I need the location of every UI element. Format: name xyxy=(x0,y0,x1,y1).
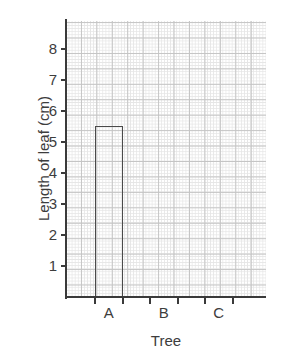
plot-area xyxy=(66,21,266,297)
x-axis-title: Tree xyxy=(66,332,266,349)
y-tick-label: 1 xyxy=(49,256,57,275)
x-tick-mark xyxy=(94,297,96,304)
y-tick-label: 5 xyxy=(49,132,57,151)
x-tick-mark xyxy=(204,297,206,304)
y-tick-label: 6 xyxy=(49,101,57,120)
y-tick-mark xyxy=(61,141,66,143)
y-tick-label: 3 xyxy=(49,194,57,213)
x-tick-mark xyxy=(149,297,151,304)
bar-a xyxy=(95,126,123,297)
y-tick-mark xyxy=(61,172,66,174)
y-tick-label: 2 xyxy=(49,225,57,244)
x-tick-mark xyxy=(232,297,234,304)
x-tick-label-c: C xyxy=(204,304,234,321)
x-tick-mark xyxy=(122,297,124,304)
y-tick-mark xyxy=(61,110,66,112)
y-tick-mark xyxy=(61,79,66,81)
y-tick-mark xyxy=(61,203,66,205)
x-tick-mark xyxy=(177,297,179,304)
y-tick-label: 7 xyxy=(49,70,57,89)
x-tick-label-b: B xyxy=(149,304,179,321)
bar-chart-figure: Length of leaf (cm) 87654321 ABC Tree xyxy=(0,0,281,358)
y-tick-label: 8 xyxy=(49,39,57,58)
y-tick-mark xyxy=(61,265,66,267)
y-tick-label: 4 xyxy=(49,163,57,182)
x-tick-label-a: A xyxy=(94,304,124,321)
y-axis-line xyxy=(65,19,67,299)
y-tick-mark xyxy=(61,234,66,236)
y-tick-mark xyxy=(61,48,66,50)
